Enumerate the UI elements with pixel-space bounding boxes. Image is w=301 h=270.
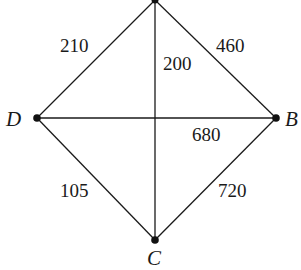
weight-a-c: 200 — [163, 53, 192, 74]
edge-a-d — [37, 0, 155, 118]
vertex-label-c: C — [147, 246, 162, 270]
weight-b-c: 720 — [218, 180, 247, 201]
weight-d-b: 680 — [192, 124, 221, 145]
vertex-c — [151, 236, 159, 244]
vertex-label-b: B — [285, 107, 298, 131]
weight-a-d: 210 — [60, 35, 89, 56]
edge-d-c — [37, 118, 155, 240]
vertex-d — [33, 114, 41, 122]
weight-a-b: 460 — [216, 35, 245, 56]
vertex-label-d: D — [5, 107, 21, 131]
graph-diagram: D B C 210 460 200 680 105 720 — [0, 0, 301, 270]
vertex-b — [272, 114, 280, 122]
weight-d-c: 105 — [60, 180, 89, 201]
